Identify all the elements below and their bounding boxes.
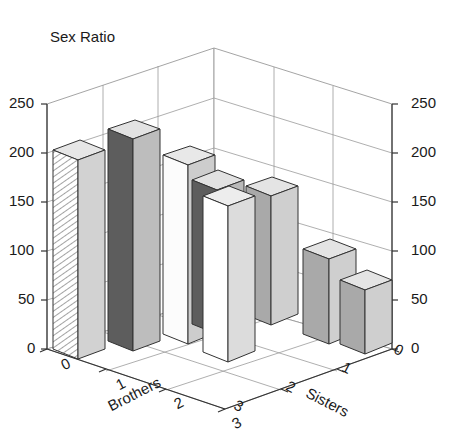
y-axis-right-tick-0: 0 [411, 339, 419, 356]
y-axis-right-tick-50: 50 [411, 290, 428, 307]
y-axis-left-tick-250: 250 [9, 94, 34, 111]
chart-plot-area [0, 0, 454, 444]
y-axis-left-tick-150: 150 [9, 192, 34, 209]
y-axis-left-tick-0: 0 [27, 339, 35, 356]
bar-b1-s0[interactable] [108, 120, 160, 351]
y-axis-right-tick-100: 100 [411, 241, 436, 258]
y-axis-left-tick-200: 200 [9, 143, 34, 160]
y-axis-right-tick-250: 250 [411, 94, 436, 111]
y-axis-left-tick-100: 100 [9, 241, 34, 258]
bar-b2-s1[interactable] [203, 186, 255, 362]
bar-b3-s3[interactable] [340, 270, 392, 354]
chart-title: Sex Ratio [50, 28, 115, 45]
y-axis-left [41, 104, 47, 349]
y-axis-left-tick-50: 50 [18, 290, 35, 307]
chart-container: Sex Ratio 250 200 150 100 50 0 250 200 1… [0, 0, 454, 444]
y-axis-right [392, 104, 398, 349]
y-axis-right-tick-150: 150 [411, 192, 436, 209]
y-axis-right-tick-200: 200 [411, 143, 436, 160]
bar-b0-s0[interactable] [53, 140, 105, 359]
